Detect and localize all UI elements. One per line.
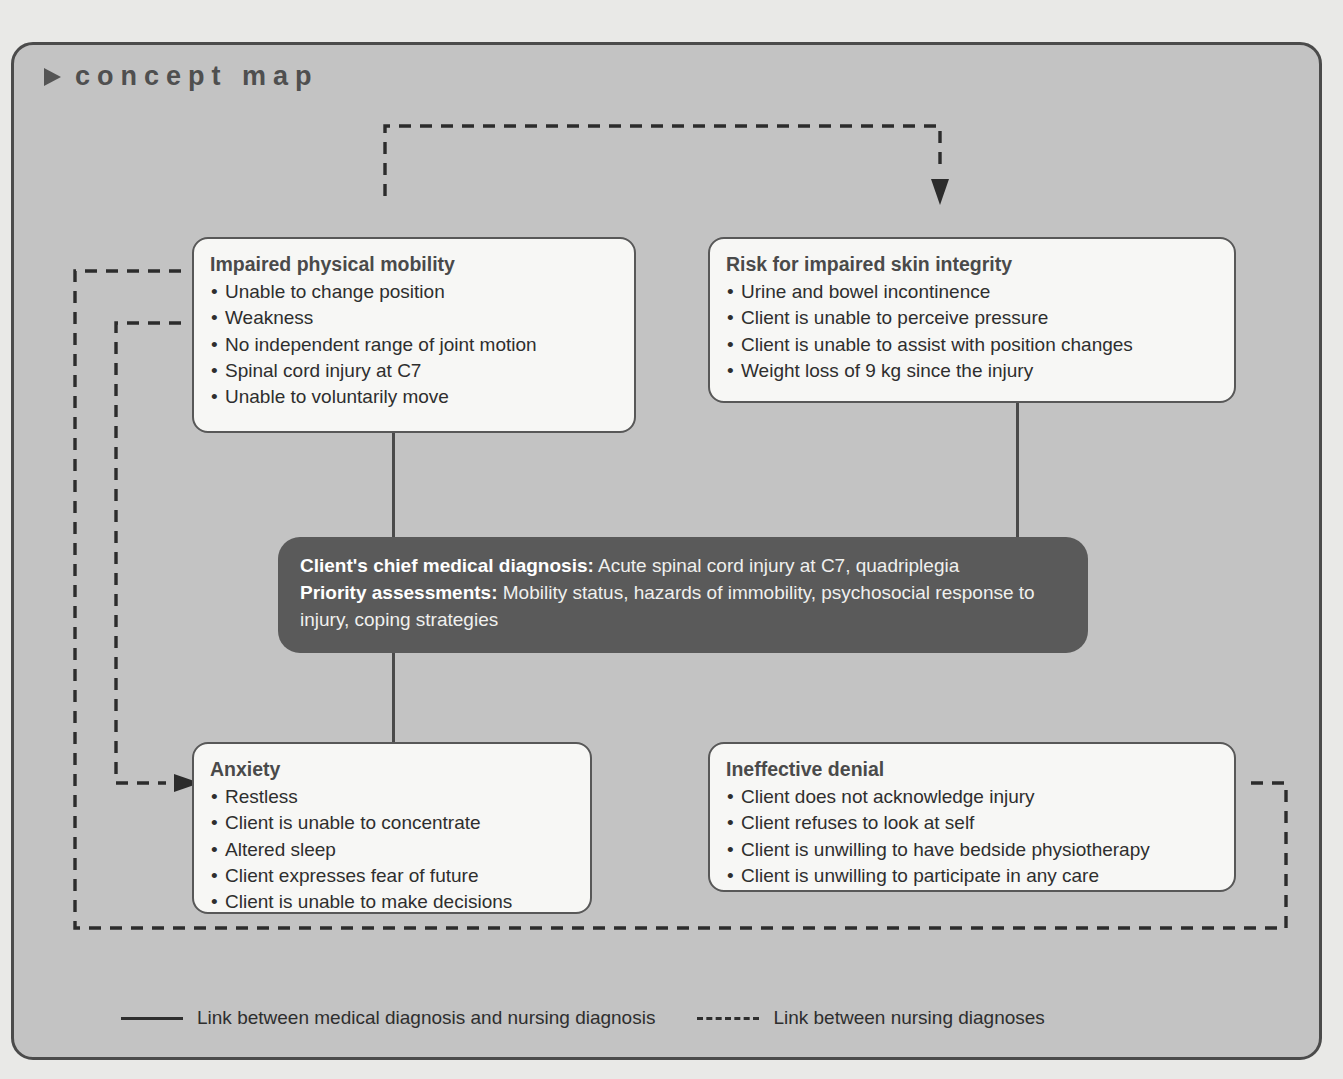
concept-box-anxiety[interactable]: Anxiety Restless Client is unable to con…: [192, 742, 592, 914]
priority-assessments-line: Priority assessments: Mobility status, h…: [300, 580, 1066, 634]
list-item: Unable to change position: [210, 279, 618, 305]
priority-assessments-label: Priority assessments:: [300, 582, 498, 603]
page-title-label: concept map: [75, 61, 319, 92]
legend-item-dashed: Link between nursing diagnoses: [697, 1007, 1044, 1029]
solid-connector-central-to-anxiety: [392, 649, 395, 745]
list-item: Client refuses to look at self: [726, 810, 1218, 836]
list-item: Client does not acknowledge injury: [726, 784, 1218, 810]
arrowhead-into-skin-icon: [931, 179, 949, 205]
central-medical-diagnosis-box: Client's chief medical diagnosis: Acute …: [278, 537, 1088, 653]
list-item: Unable to voluntarily move: [210, 384, 618, 410]
chief-medical-diagnosis-label: Client's chief medical diagnosis:: [300, 555, 594, 576]
box-item-list: Restless Client is unable to concentrate…: [210, 784, 574, 915]
dashed-line-icon: [697, 1017, 759, 1020]
box-item-list: Urine and bowel incontinence Client is u…: [726, 279, 1218, 384]
box-title: Impaired physical mobility: [210, 251, 618, 277]
list-item: Spinal cord injury at C7: [210, 358, 618, 384]
list-item: Restless: [210, 784, 574, 810]
list-item: Client expresses fear of future: [210, 863, 574, 889]
list-item: Urine and bowel incontinence: [726, 279, 1218, 305]
chief-medical-diagnosis-value: Acute spinal cord injury at C7, quadripl…: [594, 555, 959, 576]
chief-medical-diagnosis-line: Client's chief medical diagnosis: Acute …: [300, 553, 1066, 580]
concept-box-risk-for-impaired-skin-integrity[interactable]: Risk for impaired skin integrity Urine a…: [708, 237, 1236, 403]
list-item: Weight loss of 9 kg since the injury: [726, 358, 1218, 384]
concept-box-ineffective-denial[interactable]: Ineffective denial Client does not ackno…: [708, 742, 1236, 892]
box-item-list: Client does not acknowledge injury Clien…: [726, 784, 1218, 889]
box-item-list: Unable to change position Weakness No in…: [210, 279, 618, 410]
page-title: concept map: [44, 61, 319, 92]
legend: Link between medical diagnosis and nursi…: [121, 1007, 1045, 1029]
list-item: No independent range of joint motion: [210, 332, 618, 358]
dashed-link-mobility-to-skin: [385, 126, 940, 196]
triangle-right-icon: [44, 68, 61, 86]
list-item: Weakness: [210, 305, 618, 331]
legend-label: Link between nursing diagnoses: [773, 1007, 1044, 1029]
concept-box-impaired-physical-mobility[interactable]: Impaired physical mobility Unable to cha…: [192, 237, 636, 433]
list-item: Client is unable to perceive pressure: [726, 305, 1218, 331]
box-title: Ineffective denial: [726, 756, 1218, 782]
legend-item-solid: Link between medical diagnosis and nursi…: [121, 1007, 655, 1029]
legend-label: Link between medical diagnosis and nursi…: [197, 1007, 655, 1029]
concept-map-panel: concept map Impaired physical mobility U…: [11, 42, 1322, 1060]
list-item: Client is unable to assist with position…: [726, 332, 1218, 358]
box-title: Risk for impaired skin integrity: [726, 251, 1218, 277]
box-title: Anxiety: [210, 756, 574, 782]
list-item: Client is unable to concentrate: [210, 810, 574, 836]
solid-connector-skin-to-central: [1016, 401, 1019, 541]
list-item: Client is unable to make decisions: [210, 889, 574, 915]
solid-line-icon: [121, 1017, 183, 1020]
solid-connector-mobility-to-central: [392, 431, 395, 541]
dashed-link-mobility-to-anxiety: [116, 323, 181, 783]
list-item: Altered sleep: [210, 837, 574, 863]
list-item: Client is unwilling to participate in an…: [726, 863, 1218, 889]
list-item: Client is unwilling to have bedside phys…: [726, 837, 1218, 863]
